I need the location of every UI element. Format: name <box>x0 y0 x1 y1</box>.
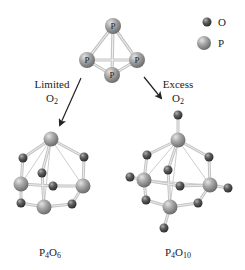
oxygen-atom <box>224 184 233 193</box>
legend-phosphorus-sphere <box>197 36 211 50</box>
phosphorus-atom <box>37 200 52 215</box>
phosphorus-atom <box>171 133 186 148</box>
p4o6-molecule <box>14 132 91 215</box>
excess-condition-label: Excess <box>163 78 194 90</box>
oxygen-atom <box>160 224 169 233</box>
limited-o2-label: O2 <box>46 92 58 104</box>
formula-subscript: 10 <box>183 251 191 260</box>
molecule-diagram <box>0 0 245 270</box>
excess-o2-label: O2 <box>172 92 184 104</box>
phosphorus-atom <box>44 132 59 147</box>
oxygen-atom <box>17 199 26 208</box>
oxygen-atom <box>49 182 58 191</box>
p4o10-formula: P4O10 <box>165 246 191 258</box>
oxygen-atom <box>205 153 214 162</box>
legend-oxygen-label: O <box>218 16 226 28</box>
oxygen-atom <box>126 173 135 182</box>
phosphorus-atom <box>203 178 218 193</box>
formula-subscript: 6 <box>57 251 61 260</box>
oxygen-atom <box>68 200 77 209</box>
oxygen-atom <box>80 153 89 162</box>
oxygen-atom <box>142 196 151 205</box>
formula-element: O <box>175 246 183 258</box>
oxygen-atom <box>38 169 47 178</box>
o2-subscript: 2 <box>54 97 58 106</box>
phosphorus-atom <box>163 200 178 215</box>
oxygen-atom <box>176 182 185 191</box>
diagram-canvas: P P P P O P Limited O2 Excess O2 P4O6 P4… <box>0 0 245 270</box>
limited-condition-label: Limited <box>35 78 70 90</box>
oxygen-atom <box>19 154 28 163</box>
oxygen-atom <box>174 111 183 120</box>
o2-base: O <box>46 92 54 104</box>
o2-subscript: 2 <box>180 97 184 106</box>
p4o6-formula: P4O6 <box>39 246 61 258</box>
oxygen-atom <box>194 199 203 208</box>
o2-base: O <box>172 92 180 104</box>
p4-atom-label: P <box>134 54 139 66</box>
phosphorus-atom <box>137 173 152 188</box>
p4-atom-label: P <box>110 20 115 32</box>
p4-atom-label: P <box>84 54 89 66</box>
p4o10-molecule <box>126 111 233 233</box>
phosphorus-atom <box>76 179 91 194</box>
arrow-excess-o2 <box>144 77 161 98</box>
oxygen-atom <box>164 166 173 175</box>
legend-oxygen-sphere <box>203 18 212 27</box>
formula-element: O <box>49 246 57 258</box>
phosphorus-atom <box>14 177 29 192</box>
legend-phosphorus-label: P <box>218 37 224 49</box>
oxygen-atom <box>143 151 152 160</box>
p4-atom-label: P <box>109 69 114 81</box>
